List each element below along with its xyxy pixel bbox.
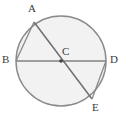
circle-diagram-canvas bbox=[0, 0, 123, 116]
vertex-label-a: A bbox=[28, 3, 36, 14]
vertex-label-c: C bbox=[62, 46, 69, 57]
geometry-figure: A B C D E bbox=[0, 0, 123, 116]
vertex-label-b: B bbox=[2, 54, 9, 65]
center-point-dot bbox=[59, 59, 63, 63]
vertex-label-e: E bbox=[92, 102, 99, 113]
vertex-label-d: D bbox=[110, 54, 118, 65]
